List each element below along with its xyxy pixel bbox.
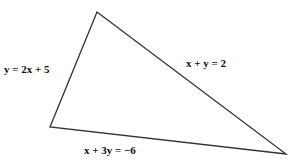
label-bottom-side: x + 3y = −6 xyxy=(84,144,136,156)
label-left-side: y = 2x + 5 xyxy=(4,63,50,75)
triangle xyxy=(50,12,286,154)
label-right-side: x + y = 2 xyxy=(186,57,227,69)
triangle-diagram: y = 2x + 5 x + y = 2 x + 3y = −6 xyxy=(0,0,303,165)
